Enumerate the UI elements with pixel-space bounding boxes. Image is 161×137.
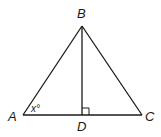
segment-ab (23, 26, 82, 115)
label-b: B (77, 6, 86, 21)
label-a: A (7, 109, 17, 124)
triangle-diagram: B A C D x° (0, 0, 161, 137)
label-c: C (145, 109, 155, 124)
segment-bc (82, 26, 142, 115)
label-d: D (77, 119, 86, 134)
right-angle-marker (82, 108, 89, 115)
angle-label-x: x° (30, 103, 40, 114)
